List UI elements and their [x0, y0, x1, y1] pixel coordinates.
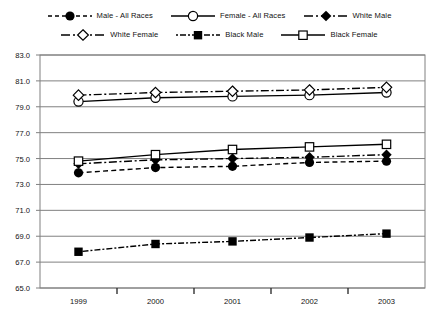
y-axis-label: 83.0 — [15, 51, 30, 60]
series-marker — [74, 168, 83, 177]
series-marker — [74, 248, 82, 256]
series-marker — [305, 233, 313, 241]
y-axis-label: 67.0 — [15, 258, 30, 267]
series-marker — [151, 240, 159, 248]
y-axis-label: 71.0 — [15, 206, 30, 215]
y-axis-label: 65.0 — [15, 284, 30, 293]
chart-container: Male - All Races Female - All Races — [0, 0, 439, 326]
y-axis-label: 79.0 — [15, 102, 30, 111]
series-marker — [74, 157, 82, 165]
y-axis-label: 69.0 — [15, 232, 30, 241]
y-axis-tick-labels: 83.081.079.077.075.073.071.069.067.065.0 — [0, 0, 30, 326]
series-marker — [228, 237, 236, 245]
y-axis-label: 75.0 — [15, 154, 30, 163]
y-axis-label: 73.0 — [15, 180, 30, 189]
x-axis-label: 2001 — [224, 297, 241, 306]
x-axis-label: 2002 — [301, 297, 318, 306]
y-axis-label: 77.0 — [15, 128, 30, 137]
x-axis-label: 1999 — [70, 297, 87, 306]
y-axis-label: 81.0 — [15, 76, 30, 85]
series-marker — [382, 140, 390, 148]
plot-svg — [0, 0, 439, 326]
plot-area: 83.081.079.077.075.073.071.069.067.065.0… — [0, 0, 439, 326]
x-axis-label: 2003 — [378, 297, 395, 306]
series-marker — [382, 229, 390, 237]
series-marker — [227, 153, 237, 163]
series-marker — [305, 143, 313, 151]
series-marker — [151, 150, 159, 158]
series-marker — [228, 145, 236, 153]
x-axis-label: 2000 — [147, 297, 164, 306]
